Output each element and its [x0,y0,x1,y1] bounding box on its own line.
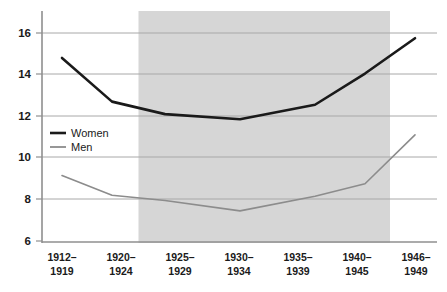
line-chart: 16 14 12 10 8 6 Women Men 1912– 1919 192… [0,0,447,292]
x-tick-label-4-line2: 1939 [286,265,310,277]
y-tick-label-16: 16 [18,27,31,39]
legend-label-women: Women [71,127,109,139]
chart-page: 16 14 12 10 8 6 Women Men 1912– 1919 192… [0,0,447,292]
y-tick-marks [36,33,42,241]
x-tick-label-0-line2: 1919 [50,265,74,277]
x-tick-label-4-line1: 1935– [283,251,312,263]
x-tick-label-2-line1: 1925– [165,251,194,263]
x-tick-label-6-line2: 1949 [404,265,428,277]
x-axis-tick-labels: 1912– 1919 1920– 1924 1925– 1929 1930– 1… [47,251,430,277]
y-tick-label-8: 8 [25,193,32,205]
x-tick-label-1-line1: 1920– [106,251,135,263]
legend-label-men: Men [71,141,92,153]
y-axis-tick-labels: 16 14 12 10 8 6 [18,27,31,247]
y-tick-label-6: 6 [25,235,31,247]
x-tick-label-2-line2: 1929 [168,265,192,277]
x-tick-label-1-line2: 1924 [109,265,133,277]
x-tick-label-5-line2: 1945 [345,265,369,277]
x-tick-label-0-line1: 1912– [47,251,76,263]
y-tick-label-10: 10 [18,151,31,163]
x-tick-label-3-line1: 1930– [224,251,253,263]
y-tick-label-14: 14 [18,68,31,80]
x-tick-label-5-line1: 1940– [342,251,371,263]
x-tick-label-6-line1: 1946– [401,251,430,263]
x-tick-label-3-line2: 1934 [227,265,251,277]
shaded-region-band [139,11,391,243]
y-tick-label-12: 12 [18,110,31,122]
